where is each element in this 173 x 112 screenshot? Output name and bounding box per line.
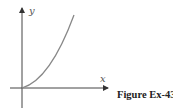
x-axis-label: x	[100, 73, 106, 84]
function-curve	[22, 15, 74, 88]
figure-caption: Figure Ex-43	[117, 89, 173, 100]
y-axis-label: y	[28, 5, 35, 16]
